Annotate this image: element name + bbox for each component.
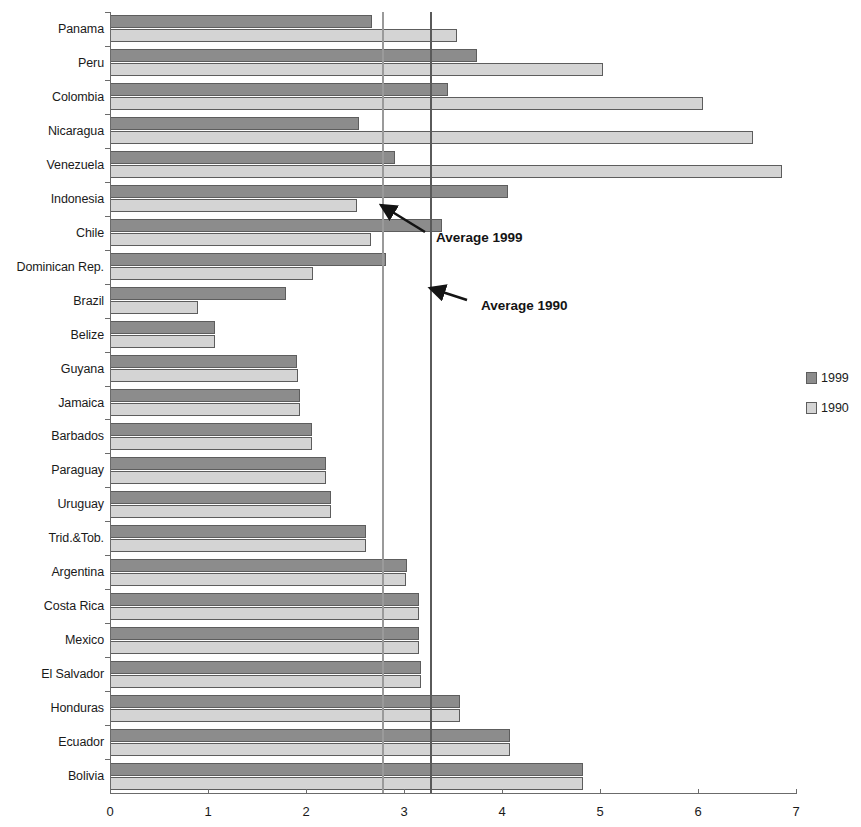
bar-1999-indonesia: [110, 185, 508, 198]
bar-1990-jamaica: [110, 403, 300, 416]
bar-1999-belize: [110, 321, 215, 334]
category-label-trid-tob: Trid.&Tob.: [48, 532, 104, 545]
bar-1999-peru: [110, 49, 477, 62]
bar-1999-trid-tob: [110, 525, 366, 538]
bar-1990-belize: [110, 335, 215, 348]
legend-label-1990: 1990: [821, 402, 849, 415]
bar-1999-paraguay: [110, 457, 326, 470]
category-label-brazil: Brazil: [73, 295, 104, 308]
category-label-costa-rica: Costa Rica: [44, 600, 104, 613]
category-label-barbados: Barbados: [51, 430, 104, 443]
chart-page: PanamaPeruColombiaNicaraguaVenezuelaIndo…: [0, 0, 861, 827]
category-axis-line: [110, 12, 111, 793]
bar-1999-bolivia: [110, 763, 583, 776]
category-label-argentina: Argentina: [51, 566, 104, 579]
bar-1999-chile: [110, 219, 442, 232]
bar-1999-jamaica: [110, 389, 300, 402]
annotation-label-average-1999: Average 1999: [436, 231, 523, 245]
category-label-belize: Belize: [71, 329, 104, 342]
category-label-paraguay: Paraguay: [51, 464, 104, 477]
bar-1990-dominican-rep: [110, 267, 313, 280]
bar-1990-colombia: [110, 97, 703, 110]
reference-line-average-1999: [382, 12, 384, 793]
value-axis-tick: [306, 789, 307, 794]
value-axis-tick-label-0: 0: [95, 805, 125, 818]
value-axis-line: [110, 793, 797, 794]
value-axis-tick: [404, 789, 405, 794]
bar-1990-guyana: [110, 369, 298, 382]
bar-1990-ecuador: [110, 743, 510, 756]
category-axis-labels: PanamaPeruColombiaNicaraguaVenezuelaIndo…: [0, 0, 104, 790]
bar-1990-uruguay: [110, 505, 331, 518]
bar-1999-venezuela: [110, 151, 395, 164]
legend-swatch-icon-1999: [806, 372, 817, 384]
bar-1990-panama: [110, 29, 457, 42]
category-label-venezuela: Venezuela: [47, 159, 105, 172]
bar-1990-brazil: [110, 301, 198, 314]
category-label-guyana: Guyana: [61, 363, 104, 376]
category-label-ecuador: Ecuador: [58, 736, 104, 749]
category-label-bolivia: Bolivia: [68, 770, 104, 783]
bar-1990-barbados: [110, 437, 312, 450]
bar-1990-honduras: [110, 709, 460, 722]
legend-item-1999: 1999: [806, 370, 861, 386]
legend-item-1990: 1990: [806, 400, 861, 416]
category-label-honduras: Honduras: [51, 702, 104, 715]
bar-1990-trid-tob: [110, 539, 366, 552]
bar-1990-costa-rica: [110, 607, 419, 620]
legend-label-1999: 1999: [821, 372, 849, 385]
bar-1999-barbados: [110, 423, 312, 436]
value-axis-tick: [208, 789, 209, 794]
bar-1990-peru: [110, 63, 603, 76]
value-axis-tick-label-5: 5: [585, 805, 615, 818]
bar-1999-argentina: [110, 559, 407, 572]
value-axis-tick: [600, 789, 601, 794]
bar-1990-venezuela: [110, 165, 782, 178]
category-label-uruguay: Uruguay: [57, 498, 104, 511]
category-label-nicaragua: Nicaragua: [48, 125, 104, 138]
value-axis-tick-label-6: 6: [683, 805, 713, 818]
bar-chart-plot-area: PanamaPeruColombiaNicaraguaVenezuelaIndo…: [0, 0, 861, 827]
bar-1990-bolivia: [110, 777, 583, 790]
bar-1999-uruguay: [110, 491, 331, 504]
value-axis-tick-label-2: 2: [291, 805, 321, 818]
category-label-jamaica: Jamaica: [58, 397, 104, 410]
bar-1990-chile: [110, 233, 371, 246]
value-axis-tick-label-1: 1: [193, 805, 223, 818]
chart-legend: 19991990: [806, 370, 861, 430]
category-label-panama: Panama: [58, 23, 104, 36]
value-axis-tick: [796, 789, 797, 794]
value-axis-tick: [502, 789, 503, 794]
bar-1990-indonesia: [110, 199, 357, 212]
category-label-el-salvador: El Salvador: [41, 668, 104, 681]
bar-1999-dominican-rep: [110, 253, 386, 266]
bar-1990-mexico: [110, 641, 419, 654]
category-label-chile: Chile: [76, 227, 104, 240]
category-label-peru: Peru: [78, 57, 104, 70]
category-label-indonesia: Indonesia: [51, 193, 104, 206]
bar-1990-argentina: [110, 573, 406, 586]
value-axis-tick-label-3: 3: [389, 805, 419, 818]
category-label-colombia: Colombia: [52, 91, 104, 104]
bar-1999-brazil: [110, 287, 286, 300]
category-label-mexico: Mexico: [65, 634, 104, 647]
annotation-label-average-1990: Average 1990: [481, 299, 568, 313]
bar-1999-colombia: [110, 83, 448, 96]
value-axis-tick: [698, 789, 699, 794]
bar-1999-panama: [110, 15, 372, 28]
bar-1999-honduras: [110, 695, 460, 708]
legend-swatch-icon-1990: [806, 402, 817, 414]
category-label-dominican-rep: Dominican Rep.: [16, 261, 104, 274]
bar-1999-mexico: [110, 627, 419, 640]
value-axis-tick-label-7: 7: [781, 805, 811, 818]
bar-1999-costa-rica: [110, 593, 419, 606]
reference-line-average-1990: [430, 12, 432, 793]
value-axis-tick-label-4: 4: [487, 805, 517, 818]
bar-1999-el-salvador: [110, 661, 421, 674]
bar-1999-nicaragua: [110, 117, 359, 130]
bar-1990-el-salvador: [110, 675, 421, 688]
value-axis-tick: [110, 789, 111, 794]
bar-1999-guyana: [110, 355, 297, 368]
bar-1990-paraguay: [110, 471, 326, 484]
bar-1999-ecuador: [110, 729, 510, 742]
